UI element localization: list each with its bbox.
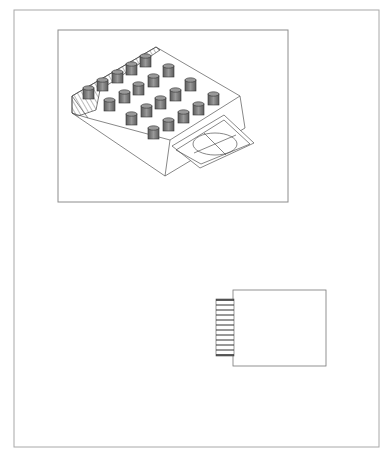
plan-view-body: [233, 290, 326, 366]
pin: [163, 118, 174, 131]
pin: [119, 90, 130, 103]
pin: [126, 62, 137, 75]
pin: [141, 104, 152, 117]
pin: [163, 64, 174, 77]
plan-view: [216, 290, 326, 366]
drawing-sheet: [0, 0, 392, 454]
pin: [178, 110, 189, 123]
drawing-canvas: [0, 0, 392, 454]
pin: [133, 82, 144, 95]
pin: [170, 88, 181, 101]
pin: [185, 78, 196, 91]
pin: [104, 98, 115, 111]
pin: [148, 74, 159, 87]
pin: [97, 78, 108, 91]
pin: [140, 54, 151, 67]
pin: [193, 102, 204, 115]
pin: [83, 86, 94, 99]
pin: [155, 96, 166, 109]
plan-view-connector-hatch: [216, 299, 234, 356]
pin: [112, 70, 123, 83]
pin: [126, 112, 137, 125]
pin: [208, 92, 219, 105]
pin: [148, 126, 159, 139]
